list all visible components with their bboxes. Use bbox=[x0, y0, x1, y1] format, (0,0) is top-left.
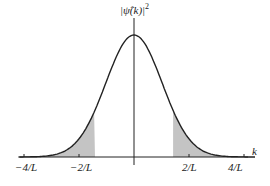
y-axis-label: |ψ̂(k)|2 bbox=[120, 2, 149, 16]
tick-label-neg4: −4/L bbox=[15, 161, 37, 173]
gaussian-curve bbox=[19, 35, 256, 157]
tick-label-pos4: 4/L bbox=[228, 161, 243, 173]
gaussian-figure bbox=[0, 0, 270, 186]
tick-label-neg2: −2/L bbox=[70, 161, 92, 173]
tick-label-pos2: 2/L bbox=[182, 161, 197, 173]
left-tail-shading bbox=[19, 112, 96, 157]
x-axis-label: k bbox=[252, 145, 257, 157]
